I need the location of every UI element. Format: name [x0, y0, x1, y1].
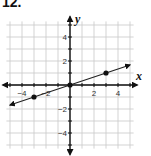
- x-tick-label: 2: [92, 89, 97, 98]
- x-tick-label: 4: [116, 89, 121, 98]
- y-tick-label: −4: [58, 129, 68, 138]
- data-point: [67, 82, 72, 87]
- x-tick-label: −4: [17, 89, 27, 98]
- data-point: [31, 94, 36, 99]
- y-tick-label: 2: [63, 57, 68, 66]
- x-axis-label: x: [135, 69, 142, 83]
- coordinate-plane: −4−22442−2−4 x y: [0, 0, 151, 156]
- y-tick-label: 4: [63, 33, 68, 42]
- y-tick-label: −2: [58, 105, 68, 114]
- y-axis-label: y: [73, 12, 81, 26]
- data-point: [103, 70, 108, 75]
